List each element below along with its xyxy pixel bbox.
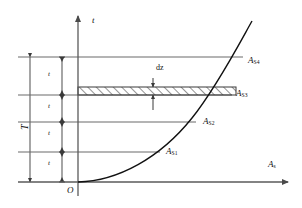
dz-label: dz <box>156 64 164 72</box>
as2-sub: S2 <box>209 120 215 126</box>
label-as4: AS4 <box>248 56 260 66</box>
bracket-label-T: T <box>20 124 30 130</box>
as1-sub: S1 <box>172 150 178 156</box>
origin-label: O <box>67 186 74 195</box>
level-lines-group <box>18 57 243 152</box>
as-axis-sub: s <box>274 163 276 169</box>
interval-label-4: t <box>48 160 50 167</box>
as3-sub: S3 <box>242 92 248 98</box>
label-as1: AS1 <box>166 147 178 157</box>
interval-label-3: t <box>48 130 50 137</box>
figure-vector-layer <box>0 0 302 208</box>
saturation-curve <box>78 21 252 182</box>
t-axis-label: t <box>92 16 95 25</box>
as4-sub: S4 <box>254 59 260 65</box>
label-as3: AS3 <box>236 89 248 99</box>
figure-canvas: t As O AS4 AS3 AS2 AS1 dz T t t t t <box>0 0 302 208</box>
as-axis-label: As <box>268 160 276 170</box>
interval-label-2: t <box>48 103 50 110</box>
interval-label-1: t <box>48 71 50 78</box>
interval-tick-axis <box>59 57 65 182</box>
label-as2: AS2 <box>203 117 215 127</box>
